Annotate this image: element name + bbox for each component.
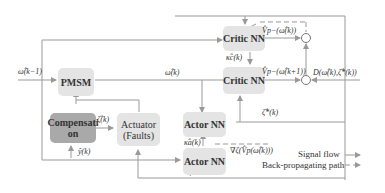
actuator-label-2: (Faults): [123, 130, 154, 141]
minus-junction: [302, 34, 311, 43]
actuator-block: Actuator(Faults): [117, 113, 160, 146]
y-k-label: ŷ(k): [78, 147, 90, 156]
kappa-c-label: κ̂c(k): [226, 53, 242, 62]
v-mid-label: V̂p−(ω̂(k+1)): [262, 67, 306, 76]
actor-nn-bot: Actor NN: [183, 148, 226, 175]
actor-bot-label: Actor NN: [184, 156, 225, 167]
legend-signal-flow: Signal flow: [298, 149, 340, 159]
critic-top-label: Critic NN: [223, 33, 265, 44]
kappa-a-label: κ̂a(k): [184, 138, 201, 147]
compensation-label-1: Compensati: [47, 117, 98, 128]
d-term-label: D(ω̂(k),ζ̂*(k)): [313, 68, 357, 77]
actuator-label-1: Actuator: [121, 119, 156, 130]
critic-nn-top: Critic NN: [223, 26, 265, 51]
omega-km1-label: ω̂(k−1): [18, 67, 42, 76]
pmsm-block: PMSM: [58, 68, 94, 96]
critic-mid-label: Critic NN: [223, 75, 265, 86]
legend-back-prop: Back-propagating path: [262, 160, 344, 170]
compensation-block: Compensation: [50, 113, 96, 143]
plus-junction: [302, 76, 311, 85]
grad-label: ∇ζ(V̂p(ω̂(k))): [230, 146, 273, 155]
zeta-star-label: ζ̂*(k): [262, 108, 278, 117]
critic-nn-mid: Critic NN: [223, 67, 265, 94]
pmsm-label: PMSM: [61, 77, 92, 88]
actor-mid-label: Actor NN: [184, 119, 225, 130]
compensation-label-2: on: [68, 128, 79, 139]
v-top-label: V̂p−(ω̂(k)): [262, 26, 296, 35]
omega-k-label: ω̂(k): [165, 68, 180, 77]
actor-nn-mid: Actor NN: [183, 112, 226, 137]
zeta-k-label: ζ̂(k): [97, 115, 109, 124]
